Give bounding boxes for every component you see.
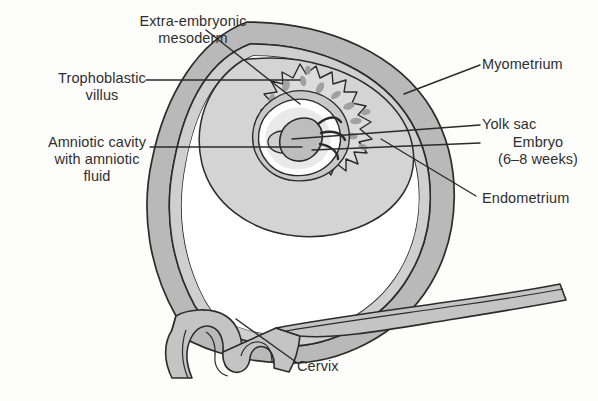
label-cervix: Cervix xyxy=(297,358,387,375)
pregnancy-uterus-diagram: Extra-embryonic mesoderm Trophoblastic v… xyxy=(0,0,598,401)
label-yolk-sac: Yolk sac xyxy=(482,116,598,133)
label-amniotic-cavity: Amniotic cavity with amniotic fluid xyxy=(12,134,182,185)
leader-myometrium xyxy=(404,65,480,94)
label-embryo: Embryo (6–8 weeks) xyxy=(482,134,594,168)
label-extra-embryonic-mesoderm: Extra-embryonic mesoderm xyxy=(93,13,293,47)
label-endometrium: Endometrium xyxy=(482,190,598,207)
label-myometrium: Myometrium xyxy=(482,56,598,73)
label-trophoblastic-villus: Trophoblastic villus xyxy=(22,70,182,104)
